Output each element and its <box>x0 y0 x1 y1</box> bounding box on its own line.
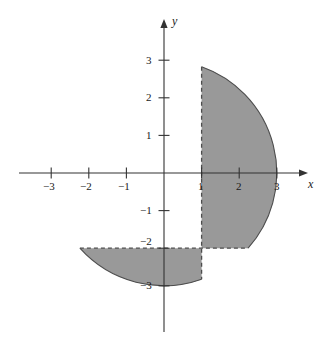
x-tick-label-minus-3: −3 <box>43 180 55 192</box>
x-tick-label-2: 2 <box>236 180 242 192</box>
x-tick-label-3: 3 <box>274 180 280 192</box>
y-tick-label-2: 2 <box>146 91 152 103</box>
y-tick-label-minus-3: −3 <box>140 279 152 291</box>
x-axis-label: x <box>308 177 313 192</box>
y-axis-label: y <box>172 14 177 29</box>
y-tick-label-minus-2: −2 <box>140 235 152 247</box>
y-tick-label-1: 1 <box>146 129 152 141</box>
x-tick-label-minus-1: −1 <box>118 180 130 192</box>
y-tick-label-minus-1: −1 <box>140 204 152 216</box>
y-axis-arrowhead <box>160 19 167 28</box>
graph-figure <box>0 0 326 338</box>
x-axis-arrowhead <box>299 169 308 176</box>
x-tick-label-minus-2: −2 <box>80 180 92 192</box>
y-tick-label-3: 3 <box>146 54 152 66</box>
x-tick-label-1: 1 <box>198 180 204 192</box>
